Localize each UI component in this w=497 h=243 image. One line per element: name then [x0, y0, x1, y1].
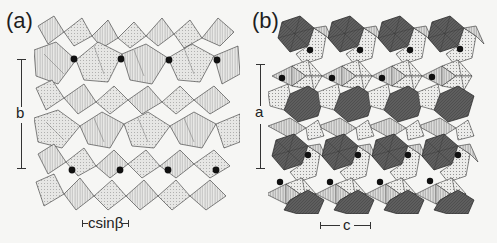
b-axis-bar-top: [21, 59, 22, 107]
panel-a-label: (a): [6, 8, 33, 34]
b-axis-label: b: [16, 104, 24, 121]
crystal-structure-a: [34, 14, 240, 214]
c-axis-label: c: [343, 216, 351, 233]
c-bar-left: [320, 225, 340, 226]
a-axis-tick-bottom: [256, 168, 265, 169]
b-axis-tick-bottom: [17, 168, 26, 169]
a-axis-label: a: [255, 103, 263, 120]
b-axis-tick-top: [17, 59, 26, 60]
a-axis-tick-top: [256, 64, 265, 65]
c-bar-right: [354, 225, 370, 226]
b-axis-bar-bottom: [21, 123, 22, 169]
a-axis-bar-top: [260, 64, 261, 106]
c-tick-right: [370, 222, 371, 229]
polyhedra-layer: [34, 16, 240, 210]
polyhedra-layer: [268, 16, 484, 214]
a-axis-bar-bottom: [260, 124, 261, 169]
csinb-axis-label: csinβ: [88, 214, 123, 231]
csinb-bar-right: [121, 223, 128, 224]
crystal-structure-b: [268, 14, 488, 214]
csinb-tick-right: [128, 220, 129, 227]
